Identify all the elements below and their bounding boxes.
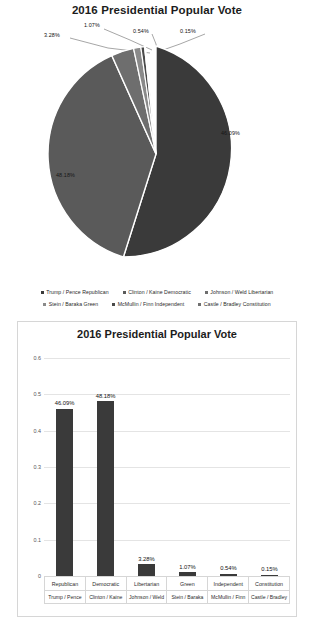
category-names-libertarian: Johnson / Weld [127, 591, 167, 604]
bar-label-republican: 46.09% [55, 400, 75, 406]
category-names-independent: McMullin / Finn [208, 591, 248, 604]
ytick-0.3: 0.3 [34, 464, 42, 470]
gridline-0.5: 0.5 [44, 394, 290, 395]
legend-swatch-castle [198, 303, 201, 306]
bar-chart-figure: 2016 Presidential Popular Vote 0.6 0.5 0… [17, 321, 297, 617]
gridline-0.2: 0.2 [44, 503, 290, 504]
bar-republican[interactable] [56, 409, 73, 577]
legend-item-clinton[interactable]: Clinton / Kaine Democratic [123, 289, 191, 295]
pie-slices [46, 44, 266, 264]
category-cell-independent: Independent McMullin / Finn [208, 577, 249, 603]
ytick-0.6: 0.6 [34, 355, 42, 361]
legend-item-castle[interactable]: Castle / Bradley Constitution [198, 301, 270, 307]
category-party-constitution: Constitution [249, 577, 289, 591]
category-party-democratic: Democratic [86, 577, 126, 591]
ytick-0.1: 0.1 [34, 537, 42, 543]
bar-democratic[interactable] [97, 401, 114, 576]
pie-chart-figure: 2016 Presidential Popular Vote 3.28% 1.0… [0, 0, 314, 312]
pie-chart-canvas: 46.09% 48.18% [46, 44, 266, 264]
legend-item-trump[interactable]: Trump / Pence Republican [41, 289, 109, 295]
gridline-0.3: 0.3 [44, 467, 290, 468]
legend-item-johnson[interactable]: Johnson / Weld Libertarian [205, 289, 273, 295]
category-cell-democratic: Democratic Clinton / Kaine [86, 577, 127, 603]
legend-swatch-trump [41, 291, 44, 294]
category-names-green: Stein / Baraka [167, 591, 207, 604]
legend-label-johnson: Johnson / Weld Libertarian [210, 289, 273, 295]
legend-label-mcmullin: McMullin / Finn Independent [118, 301, 185, 307]
bar-label-libertarian: 3.28% [138, 556, 154, 562]
legend-swatch-stein [43, 303, 46, 306]
category-names-republican: Trump / Pence [45, 591, 85, 604]
category-names-democratic: Clinton / Kaine [86, 591, 126, 604]
legend-label-clinton: Clinton / Kaine Democratic [128, 289, 191, 295]
legend-item-stein[interactable]: Stein / Baraka Green [43, 301, 98, 307]
bar-label-democratic: 48.18% [96, 393, 116, 399]
legend-label-stein: Stein / Baraka Green [49, 301, 98, 307]
pie-label-trump: 46.09% [221, 130, 240, 136]
gridline-0.1: 0.1 [44, 540, 290, 541]
pie-chart-legend: Trump / Pence Republican Clinton / Kaine… [0, 286, 314, 310]
category-cell-republican: Republican Trump / Pence [45, 577, 86, 603]
legend-item-mcmullin[interactable]: McMullin / Finn Independent [112, 301, 184, 307]
gridline-0.6: 0.6 [44, 358, 290, 359]
category-names-constitution: Castle / Bradley [249, 591, 289, 604]
category-cell-green: Green Stein / Baraka [167, 577, 208, 603]
category-cell-libertarian: Libertarian Johnson / Weld [127, 577, 168, 603]
legend-row-2: Stein / Baraka Green McMullin / Finn Ind… [0, 298, 314, 310]
legend-label-trump: Trump / Pence Republican [46, 289, 108, 295]
category-party-green: Green [167, 577, 207, 591]
bar-chart-plot-area: 0.6 0.5 0.4 0.3 0.2 0.1 0 46.09% 48.18% … [44, 358, 290, 576]
legend-row-1: Trump / Pence Republican Clinton / Kaine… [0, 286, 314, 298]
ytick-0.5: 0.5 [34, 391, 42, 397]
category-party-independent: Independent [208, 577, 248, 591]
bar-label-constitution: 0.15% [261, 566, 277, 572]
pie-label-clinton: 48.18% [56, 172, 75, 178]
legend-swatch-johnson [205, 291, 208, 294]
bar-label-green: 1.07% [179, 564, 195, 570]
bar-label-independent: 0.54% [220, 565, 236, 571]
ytick-0.4: 0.4 [34, 428, 42, 434]
legend-swatch-mcmullin [112, 303, 115, 306]
bar-chart-category-table: Republican Trump / Pence Democratic Clin… [44, 576, 290, 604]
bar-libertarian[interactable] [138, 564, 155, 576]
bar-chart-title: 2016 Presidential Popular Vote [18, 328, 296, 340]
legend-swatch-clinton [123, 291, 126, 294]
gridline-0.4: 0.4 [44, 431, 290, 432]
legend-label-castle: Castle / Bradley Constitution [204, 301, 271, 307]
ytick-0.2: 0.2 [34, 500, 42, 506]
category-party-republican: Republican [45, 577, 85, 591]
ytick-0: 0 [38, 573, 41, 579]
category-party-libertarian: Libertarian [127, 577, 167, 591]
category-cell-constitution: Constitution Castle / Bradley [249, 577, 290, 603]
